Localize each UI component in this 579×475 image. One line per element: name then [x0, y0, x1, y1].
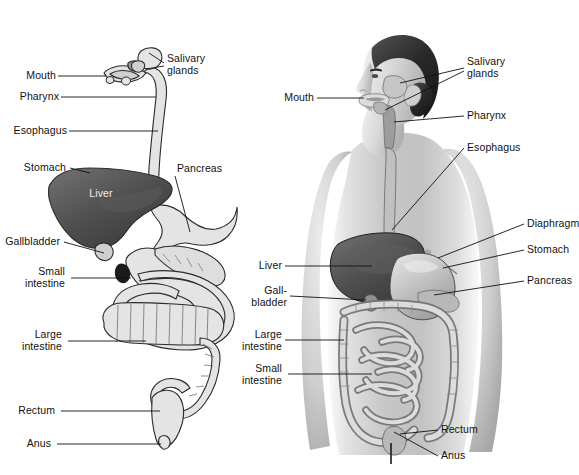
figure-caption-cropped [0, 466, 575, 475]
anus-shape [159, 436, 171, 450]
label-liver-body: Liver [232, 260, 282, 272]
label-esophagus-schematic: Esophagus [0, 125, 67, 137]
label-mouth-body: Mouth [264, 92, 314, 104]
label-stomach-body: Stomach [527, 244, 569, 256]
gallbladder-shape [95, 243, 113, 261]
label-large-intestine-body: Large intestine [228, 329, 282, 352]
label-pharynx-schematic: Pharynx [0, 91, 59, 103]
label-gallbladder-body: Gall- bladder [232, 285, 287, 308]
schematic-panel [48, 48, 237, 449]
label-stomach-schematic: Stomach [0, 162, 66, 174]
label-mouth-schematic: Mouth [0, 70, 56, 82]
label-small-intestine-schematic: Small intestine [0, 266, 65, 289]
rectum-body-shape [382, 426, 406, 455]
label-pharynx-body: Pharynx [467, 110, 506, 122]
label-liver-schematic: Liver [78, 188, 124, 200]
label-small-intestine-body: Small intestine [228, 363, 282, 386]
label-anus-schematic: Anus [0, 438, 51, 450]
label-pancreas-schematic: Pancreas [177, 163, 222, 175]
label-anus-body: Anus [441, 450, 465, 462]
body-panel [285, 35, 524, 464]
label-large-intestine-schematic: Large intestine [0, 329, 62, 352]
label-salivary-glands-body: Salivary glands [467, 56, 505, 79]
label-rectum-schematic: Rectum [0, 405, 55, 417]
label-diaphragm-body: Diaphragm [527, 218, 579, 230]
label-pancreas-body: Pancreas [527, 275, 572, 287]
label-salivary-glands-schematic: Salivary glands [167, 53, 205, 76]
label-rectum-body: Rectum [441, 424, 478, 436]
label-esophagus-body: Esophagus [467, 142, 520, 154]
label-gallbladder-schematic: Gallbladder [0, 236, 60, 248]
